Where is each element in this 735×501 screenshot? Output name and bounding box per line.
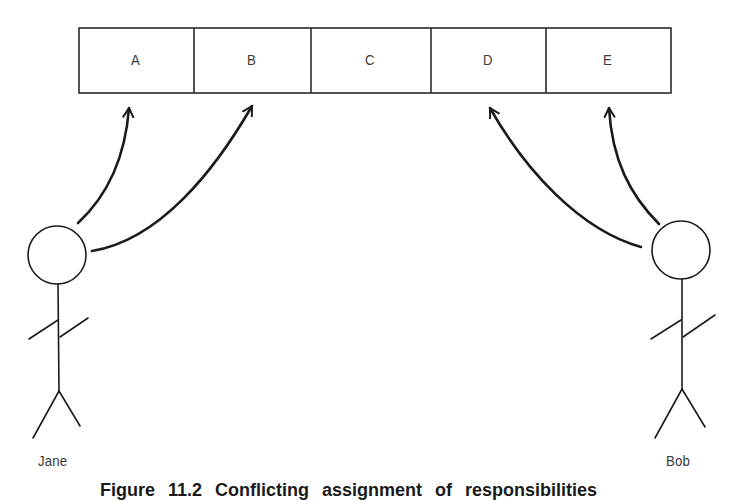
arrow-jane-to-a (78, 108, 129, 223)
jane-stick-figure (28, 226, 88, 438)
bob-right-arm (683, 315, 715, 337)
actor-label-jane: Jane (38, 452, 67, 469)
jane-left-arm (29, 320, 58, 339)
arrow-bob-to-e (609, 108, 659, 224)
bob-head (652, 221, 710, 279)
figure-caption: Figure 11.2 Conflicting assignment of re… (100, 480, 597, 501)
box-label-c: C (365, 51, 375, 68)
box-strip (79, 28, 671, 93)
box-label-a: A (131, 51, 140, 68)
jane-right-leg (59, 391, 80, 426)
jane-left-leg (33, 391, 59, 438)
jane-right-arm (60, 318, 88, 337)
jane-arrows (78, 106, 252, 251)
actor-label-bob: Bob (666, 452, 690, 469)
box-label-d: D (483, 51, 493, 68)
arrow-jane-to-b (92, 106, 252, 251)
jane-head (28, 226, 86, 284)
bob-left-leg (655, 389, 682, 438)
bob-left-arm (651, 320, 681, 339)
box-label-b: B (247, 51, 256, 68)
bob-stick-figure (651, 221, 715, 438)
jane-body (58, 284, 59, 391)
bob-arrows (490, 108, 659, 247)
arrow-bob-to-d (490, 108, 641, 247)
box-label-e: E (603, 51, 612, 68)
bob-right-leg (682, 389, 705, 427)
box-strip-outline (79, 28, 671, 93)
